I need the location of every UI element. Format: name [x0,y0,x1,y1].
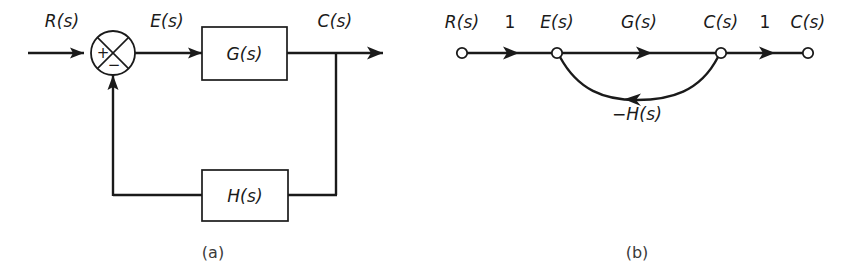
node-c-label: C(s) [704,12,739,32]
branch-feedback-gain: −H(s) [612,104,662,124]
node-c-out [803,48,813,58]
node-r-label: R(s) [445,12,480,32]
forward-gain-block: G(s) [202,27,287,80]
branch-c-to-cout-gain: 1 [760,12,771,32]
node-c-out-label: C(s) [791,12,826,32]
summing-junction-minus-sign: − [108,56,121,74]
node-c [716,48,726,58]
panel-a-caption: (a) [202,243,224,262]
summing-junction: + − [91,31,135,75]
node-e [552,48,562,58]
branch-e-to-c-gain: G(s) [621,12,657,32]
feedback-arrow [108,75,119,196]
panel-b-signal-flow-graph: R(s) E(s) C(s) C(s) 1 G(s) 1 −H(s) (b) [445,12,826,262]
branch-r-to-e-gain: 1 [505,12,516,32]
sfg-feedback-arc [560,57,718,100]
node-r [457,48,467,58]
node-e-label: E(s) [540,12,574,32]
panel-a-block-diagram: + − R(s) E(s) G(s) C(s) H(s) [28,11,383,262]
feedback-block-label: H(s) [227,186,263,206]
feedback-block: H(s) [202,170,288,221]
label-input-signal: R(s) [45,11,80,31]
label-error-signal: E(s) [150,11,184,31]
forward-gain-block-label: G(s) [226,44,262,64]
label-output-signal: C(s) [318,11,353,31]
input-arrow [28,48,84,59]
panel-b-caption: (b) [626,243,649,262]
control-system-figure: + − R(s) E(s) G(s) C(s) H(s) [0,0,846,280]
error-arrow [135,48,202,59]
